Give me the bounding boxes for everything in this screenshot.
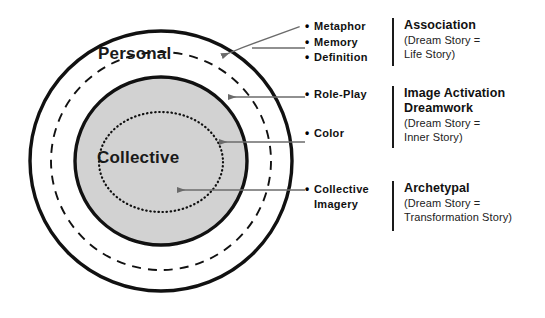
detail-title: Archetypal xyxy=(404,181,545,196)
bullet-item: • Collective Imagery xyxy=(305,182,390,211)
detail-equation: (Dream Story = Life Story) xyxy=(404,33,545,61)
bullet-label: Collective Imagery xyxy=(314,182,390,211)
collective-ring-label: Collective xyxy=(97,148,179,168)
group-divider-bar xyxy=(392,86,394,148)
bullet-list-image-activation: • Role-Play • Color xyxy=(305,86,390,141)
bullet-label: Definition xyxy=(314,50,390,65)
detail-title: Image Activation Dreamwork xyxy=(404,86,545,116)
bullet-dot-icon: • xyxy=(305,35,314,50)
annotation-group-image-activation: • Role-Play • Color Image Activation Dre… xyxy=(305,86,545,148)
bullet-label: Color xyxy=(314,126,390,141)
detail-association: Association (Dream Story = Life Story) xyxy=(404,18,545,61)
personal-ring-label: Personal xyxy=(98,44,171,64)
annotation-group-association: • Metaphor • Memory • Definition Associa… xyxy=(305,18,545,66)
detail-equation-line: Life Story) xyxy=(404,47,545,61)
detail-equation-line: Inner Story) xyxy=(404,130,545,144)
detail-archetypal: Archetypal (Dream Story = Transformation… xyxy=(404,181,545,224)
detail-title-line: Image Activation xyxy=(404,86,505,100)
bullet-dot-icon: • xyxy=(305,182,314,197)
detail-image-activation: Image Activation Dreamwork (Dream Story … xyxy=(404,86,545,144)
bullet-dot-icon: • xyxy=(305,126,314,141)
bullet-list-archetypal: • Collective Imagery xyxy=(305,181,390,212)
detail-equation-line: (Dream Story = xyxy=(404,116,545,130)
detail-equation-line: (Dream Story = xyxy=(404,33,545,47)
annotation-column: • Metaphor • Memory • Definition Associa… xyxy=(305,0,545,318)
bullet-label: Role-Play xyxy=(314,87,390,102)
bullet-list-association: • Metaphor • Memory • Definition xyxy=(305,18,390,66)
detail-title-line: Dreamwork xyxy=(404,101,473,115)
bullet-item: • Metaphor xyxy=(305,19,390,34)
annotation-group-archetypal: • Collective Imagery Archetypal (Dream S… xyxy=(305,181,545,231)
bullet-label-line: Imagery xyxy=(314,197,390,212)
bullet-dot-icon: • xyxy=(305,87,314,102)
bullet-dot-icon: • xyxy=(305,50,314,65)
detail-equation: (Dream Story = Inner Story) xyxy=(404,116,545,144)
bullet-item: • Memory xyxy=(305,35,390,50)
bullet-label: Metaphor xyxy=(314,19,390,34)
detail-equation: (Dream Story = Transformation Story) xyxy=(404,196,545,224)
detail-title: Association xyxy=(404,18,545,33)
detail-equation-line: (Dream Story = xyxy=(404,196,545,210)
bullet-label-line: Collective xyxy=(314,182,390,197)
bullet-dot-icon: • xyxy=(305,19,314,34)
detail-equation-line: Transformation Story) xyxy=(404,210,545,224)
bullet-item: • Color xyxy=(305,126,390,141)
bullet-item: • Definition xyxy=(305,50,390,65)
bullet-label: Memory xyxy=(314,35,390,50)
bullet-item: • Role-Play xyxy=(305,87,390,102)
group-divider-bar xyxy=(392,18,394,66)
leader-line-association xyxy=(222,27,300,56)
group-divider-bar xyxy=(392,181,394,231)
